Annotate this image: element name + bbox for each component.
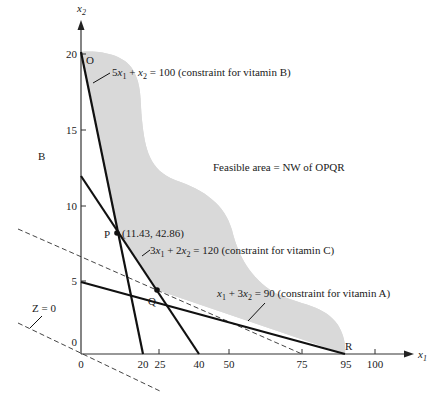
- leader-z0: [30, 316, 42, 328]
- feasible-area-label: Feasible area = NW of OPQR: [213, 161, 345, 173]
- point-p-marker: [114, 230, 120, 236]
- y-axis-label: x2: [76, 2, 86, 17]
- constraint-label-vitamin-b: 5x1 + x2 = 100 (constraint for vitamin B…: [112, 66, 291, 81]
- x-tick-0: 0: [78, 358, 84, 370]
- point-q-marker: [154, 287, 160, 293]
- point-q-label: Q: [148, 295, 156, 307]
- x-tick-75: 75: [297, 358, 309, 370]
- x-tick-95: 95: [341, 358, 353, 370]
- y-tick-10: 10: [66, 200, 78, 212]
- point-r-label: R: [345, 340, 353, 352]
- y-tick-15: 15: [66, 124, 78, 136]
- x-tick-25: 25: [155, 358, 167, 370]
- y-tick-20: 20: [66, 48, 78, 60]
- x-axis-label: x1: [417, 348, 427, 363]
- point-o-label: O: [86, 54, 94, 66]
- y-tick-0: 0: [72, 336, 78, 348]
- side-label-b: B: [38, 150, 45, 162]
- point-p-coords: (11.43, 42.86): [122, 227, 184, 240]
- x-tick-20: 20: [138, 358, 150, 370]
- iso-line-label: Z = 0: [32, 302, 56, 314]
- point-p-label: P: [104, 228, 110, 240]
- x-tick-50: 50: [224, 358, 236, 370]
- x-tick-40: 40: [194, 358, 206, 370]
- lp-diagram: x2 x1 0 20 25 40 50 75 95 100 0 5 10 15 …: [0, 0, 440, 407]
- x-tick-100: 100: [367, 358, 384, 370]
- y-tick-5: 5: [72, 275, 78, 287]
- x-axis-arrow-icon: [404, 351, 414, 358]
- y-axis-arrow-icon: [78, 20, 85, 30]
